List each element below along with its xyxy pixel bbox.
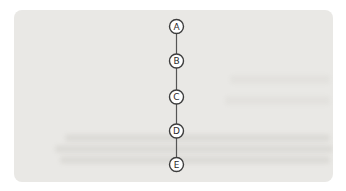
node-e-label: E xyxy=(174,160,180,170)
node-e: E xyxy=(170,158,184,172)
node-d-label: D xyxy=(173,126,180,136)
node-b-label: B xyxy=(173,56,179,66)
chain-diagram: A B C D E xyxy=(0,0,346,191)
node-c: C xyxy=(170,90,184,104)
node-b: B xyxy=(170,54,184,68)
node-a: A xyxy=(170,20,184,34)
node-a-label: A xyxy=(173,22,180,32)
node-c-label: C xyxy=(173,92,179,102)
node-d: D xyxy=(170,124,184,138)
page-background: A B C D E xyxy=(0,0,346,191)
